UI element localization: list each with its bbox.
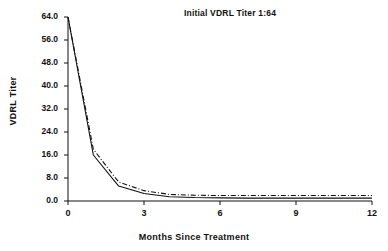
series-line-solid-curve bbox=[68, 17, 372, 198]
y-axis-ticks bbox=[64, 17, 68, 201]
data-series-group bbox=[68, 17, 372, 198]
plot-area bbox=[0, 0, 388, 251]
series-line-dash-dot-curve bbox=[68, 17, 372, 196]
x-axis-ticks bbox=[68, 201, 372, 205]
axis-lines bbox=[68, 17, 372, 201]
chart-container: Initial VDRL Titer 1:64 VDRL Titer Month… bbox=[0, 0, 388, 251]
